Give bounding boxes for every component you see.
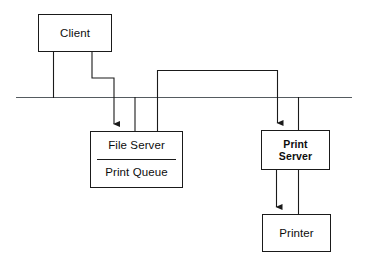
node-print-server-label-line1: Print — [283, 138, 307, 150]
node-printer[interactable]: Printer — [262, 214, 331, 252]
node-printer-label: Printer — [279, 227, 314, 240]
node-client[interactable]: Client — [38, 14, 112, 52]
node-file-server[interactable]: File Server Print Queue — [90, 131, 183, 188]
node-file-server-label: File Server — [91, 139, 182, 152]
connector-client-to-file-server — [92, 52, 114, 124]
node-file-server-print-queue-label: Print Queue — [91, 166, 182, 179]
node-print-server-label-line2: Server — [279, 150, 312, 162]
node-file-server-divider — [97, 159, 176, 160]
node-print-server[interactable]: Print Server — [261, 130, 330, 170]
network-diagram: Client File Server Print Queue Print Ser… — [0, 0, 365, 263]
connector-file-server-to-print-server — [158, 71, 278, 132]
node-client-label: Client — [60, 27, 90, 40]
